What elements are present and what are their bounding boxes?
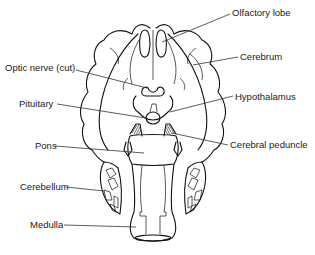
pituitary-body — [146, 112, 160, 124]
olfactory-lobe-right — [156, 30, 166, 57]
label-pituitary: Pituitary — [19, 98, 54, 109]
pituitary-stalk — [150, 104, 157, 112]
pons — [128, 135, 178, 166]
leader-cerebrum — [193, 57, 238, 65]
olfactory-lobe-left — [140, 30, 150, 57]
olfactory-tract-left — [130, 40, 139, 84]
sulcus — [180, 78, 185, 90]
leader-cerebellum — [66, 187, 104, 191]
cerebral-peduncle-right — [164, 124, 176, 136]
cerebellum-left — [100, 162, 121, 214]
leader-medulla — [64, 225, 136, 227]
medulla-right-ridge — [160, 166, 166, 234]
cerebellum-right — [185, 162, 206, 214]
leader-pons — [55, 146, 144, 153]
label-cerebrum: Cerebrum — [240, 51, 282, 62]
optic-chiasma — [142, 87, 164, 96]
label-pons: Pons — [35, 140, 57, 151]
hypothalamus-region — [133, 96, 173, 120]
leader-olfactory-lobe — [162, 14, 230, 42]
sulcus — [123, 78, 128, 90]
label-cerebellum: Cerebellum — [20, 181, 69, 192]
label-olfactory-lobe: Olfactory lobe — [232, 7, 291, 18]
sulcus — [110, 48, 119, 64]
olfactory-tract-right — [167, 40, 176, 84]
leader-hypothalamus — [170, 96, 233, 112]
label-hypothalamus: Hypothalamus — [235, 91, 296, 102]
sulcus — [187, 48, 196, 64]
label-optic-nerve: Optic nerve (cut) — [5, 62, 75, 73]
label-medulla: Medulla — [30, 219, 64, 230]
brain-diagram: Olfactory lobe Cerebrum Optic nerve (cut… — [0, 0, 315, 255]
cerebral-peduncle-left — [130, 124, 142, 136]
medulla-left-ridge — [140, 166, 146, 234]
brain-drawing — [81, 25, 226, 241]
medulla — [130, 164, 176, 241]
label-cerebral-peduncle: Cerebral peduncle — [230, 139, 308, 150]
spinal-cord-cut — [135, 235, 171, 241]
leader-pituitary — [57, 104, 146, 118]
